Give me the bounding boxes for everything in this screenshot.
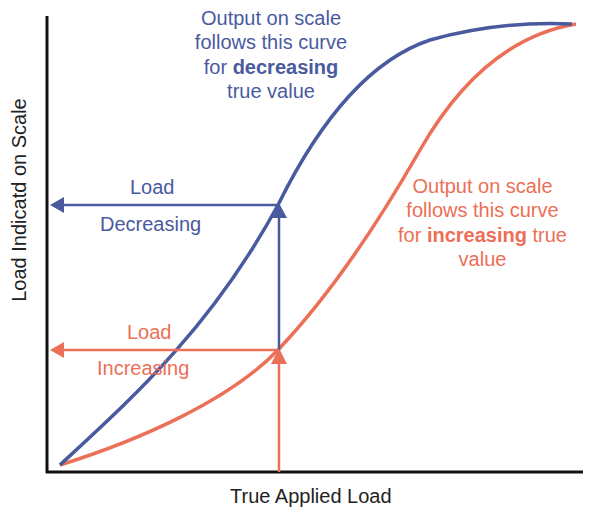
annotation-line: for decreasing — [178, 55, 364, 79]
y-axis-label: Load Indicatd on Scale — [4, 0, 34, 519]
annotation-text: for — [204, 56, 233, 78]
decreasing-curve-annotation: Output on scale follows this curve for d… — [178, 6, 364, 104]
x-axis-label: True Applied Load — [230, 484, 392, 508]
load-decreasing-label-bottom: Decreasing — [100, 212, 201, 236]
increasing-arrowhead-left — [50, 342, 64, 358]
annotation-text: true — [527, 224, 567, 246]
annotation-line: true value — [178, 79, 364, 103]
annotation-line: value — [375, 247, 590, 271]
increasing-curve-annotation: Output on scale follows this curve for i… — [375, 174, 590, 272]
load-increasing-label-bottom: Increasing — [97, 356, 189, 380]
load-increasing-label-top: Load — [127, 320, 172, 344]
y-axis-label-text: Load Indicatd on Scale — [8, 98, 31, 302]
load-decreasing-label-top: Load — [130, 175, 175, 199]
annotation-line: Output on scale — [178, 6, 364, 30]
annotation-line: follows this curve — [178, 30, 364, 54]
annotation-line: Output on scale — [375, 174, 590, 198]
annotation-line: for increasing true — [375, 223, 590, 247]
annotation-emphasis: decreasing — [233, 56, 339, 78]
decreasing-arrowhead-left — [50, 197, 64, 213]
annotation-text: for — [398, 224, 427, 246]
annotation-line: follows this curve — [375, 198, 590, 222]
annotation-emphasis: increasing — [427, 224, 527, 246]
